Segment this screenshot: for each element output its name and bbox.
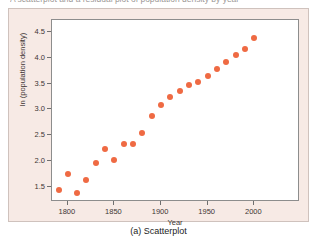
data-point <box>177 88 183 94</box>
data-point <box>121 141 127 147</box>
y-axis-tick-label: 4.5 <box>35 26 45 35</box>
data-point <box>56 187 62 193</box>
data-point <box>233 52 239 58</box>
data-point <box>149 113 155 119</box>
x-axis-tick-label: 1950 <box>198 207 215 216</box>
x-axis-tick-label: 1800 <box>59 207 76 216</box>
data-point <box>195 79 201 85</box>
y-axis-tick-label: 2.5 <box>35 130 45 139</box>
x-axis-tick <box>253 201 254 205</box>
data-point <box>102 146 108 152</box>
x-axis-tick-label: 2000 <box>245 207 262 216</box>
y-axis-tick-label: 4.0 <box>35 52 45 61</box>
figure-scatterplot: A scatterplot and a residual plot of pop… <box>0 0 317 242</box>
y-axis-tick-label: 3.5 <box>35 78 45 87</box>
y-axis-tick-label: 2.0 <box>35 156 45 165</box>
data-point <box>130 141 136 147</box>
data-point <box>83 177 89 183</box>
x-axis-tick <box>67 201 68 205</box>
data-point <box>158 102 164 108</box>
data-point <box>186 82 192 88</box>
data-point <box>74 190 80 196</box>
x-axis-tick <box>207 201 208 205</box>
data-point <box>111 157 117 163</box>
data-point <box>242 46 248 52</box>
data-point <box>93 160 99 166</box>
page-heading-clipped: A scatterplot and a residual plot of pop… <box>10 0 310 6</box>
data-point <box>139 130 145 136</box>
data-point <box>214 66 220 72</box>
y-axis-tick-label: 3.0 <box>35 104 45 113</box>
data-points-layer <box>52 20 298 200</box>
x-axis-tick-label: 1900 <box>152 207 169 216</box>
y-axis-title: ln (population density) <box>18 5 27 135</box>
x-axis-tick <box>160 201 161 205</box>
data-point <box>65 171 71 177</box>
y-axis-tick-label: 1.5 <box>35 182 45 191</box>
data-point <box>223 59 229 65</box>
figure-caption: (a) Scatterplot <box>0 226 317 236</box>
data-point <box>205 73 211 79</box>
y-axis: ln (population density) 1.52.02.53.03.54… <box>9 9 51 201</box>
figure-panel: ln (population density) 1.52.02.53.03.54… <box>8 8 309 222</box>
data-point <box>251 35 257 41</box>
x-axis-tick-label: 1850 <box>105 207 122 216</box>
x-axis-tick <box>113 201 114 205</box>
plot-area <box>51 19 299 201</box>
data-point <box>167 94 173 100</box>
